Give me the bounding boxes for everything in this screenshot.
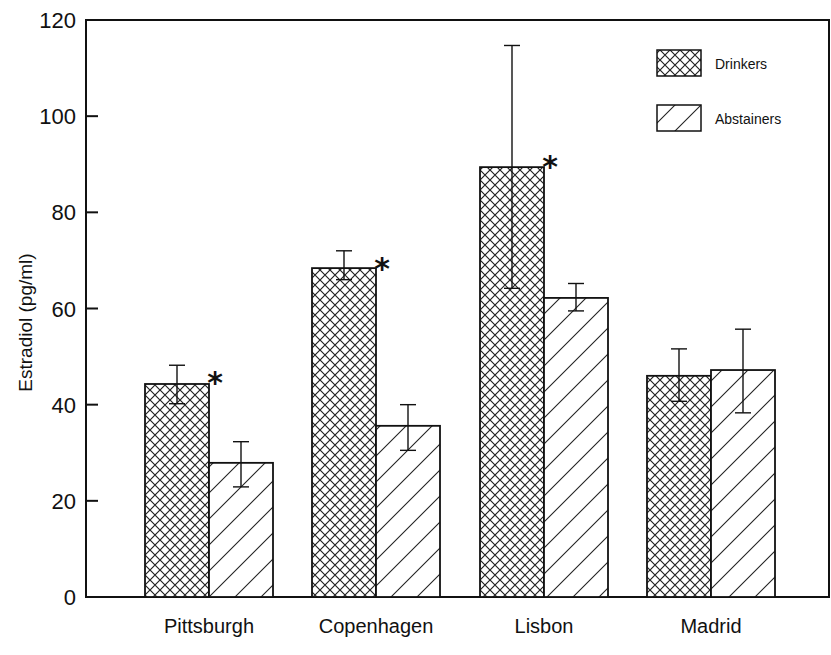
legend-swatch-abstainers bbox=[657, 105, 701, 131]
significance-marker: * bbox=[542, 149, 558, 184]
legend-label-abstainers: Abstainers bbox=[715, 111, 781, 127]
y-tick-label: 100 bbox=[39, 104, 76, 129]
bar-abstainers bbox=[544, 298, 608, 597]
bar-drinkers bbox=[312, 268, 376, 597]
significance-marker: * bbox=[207, 365, 223, 400]
y-tick-label: 60 bbox=[52, 297, 76, 322]
bar-group-copenhagen: Copenhagen bbox=[312, 251, 440, 637]
bar-group-pittsburgh: Pittsburgh bbox=[145, 365, 273, 637]
bar-abstainers bbox=[376, 426, 440, 597]
legend: DrinkersAbstainers bbox=[657, 50, 781, 131]
significance-marker: * bbox=[374, 251, 390, 286]
y-tick-label: 120 bbox=[39, 8, 76, 33]
y-tick-label: 80 bbox=[52, 200, 76, 225]
bar-group-madrid: Madrid bbox=[647, 329, 775, 637]
y-tick-label: 20 bbox=[52, 489, 76, 514]
bar-drinkers bbox=[145, 384, 209, 597]
y-tick-label: 40 bbox=[52, 393, 76, 418]
legend-swatch-drinkers bbox=[657, 50, 701, 76]
bars: PittsburghCopenhagenLisbonMadrid*** bbox=[145, 45, 775, 637]
x-category-label: Lisbon bbox=[515, 615, 574, 637]
x-category-label: Madrid bbox=[680, 615, 741, 637]
bar-chart: 020406080100120Estradiol (pg/ml) Pittsbu… bbox=[0, 0, 831, 655]
legend-label-drinkers: Drinkers bbox=[715, 56, 767, 72]
y-tick-label: 0 bbox=[64, 585, 76, 610]
x-category-label: Copenhagen bbox=[319, 615, 434, 637]
y-axis-label: Estradiol (pg/ml) bbox=[15, 253, 36, 391]
x-category-label: Pittsburgh bbox=[164, 615, 254, 637]
bar-group-lisbon: Lisbon bbox=[480, 45, 608, 637]
bar-drinkers bbox=[647, 376, 711, 597]
